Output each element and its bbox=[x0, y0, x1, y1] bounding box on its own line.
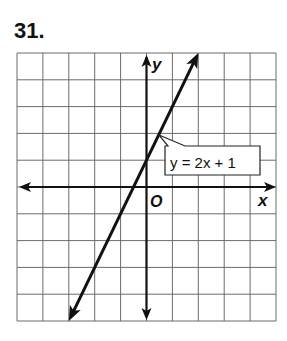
origin-label: O bbox=[150, 193, 163, 210]
x-axis-label: x bbox=[257, 191, 269, 210]
y-axis-label: y bbox=[151, 55, 163, 74]
coordinate-graph: x y O y = 2x + 1 bbox=[0, 0, 287, 341]
equation-label: y = 2x + 1 bbox=[170, 154, 236, 171]
axes bbox=[19, 55, 276, 320]
